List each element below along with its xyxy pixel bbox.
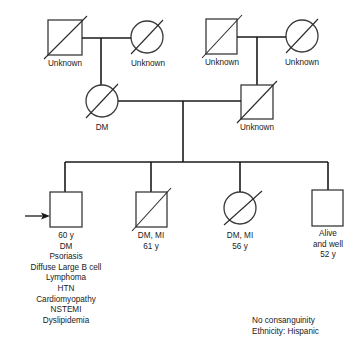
maternal-grandmother-label: Unknown	[285, 58, 319, 69]
proband-condition: NSTEMI	[31, 305, 102, 316]
brother2-status: and well	[313, 240, 343, 251]
brother2-label: Alive and well 52 y	[313, 229, 343, 261]
sister-conditions: DM, MI	[227, 231, 253, 242]
brother1-age: 61 y	[138, 242, 164, 253]
maternal-grandparents	[202, 15, 318, 85]
proband-condition: HTN	[31, 284, 102, 295]
diagram-notes: No consanguinity Ethnicity: Hispanic	[252, 316, 319, 337]
paternal-grandmother-label: Unknown	[131, 59, 165, 70]
paternal-grandfather-label: Unknown	[48, 59, 82, 70]
father-label: Unknown	[240, 123, 274, 134]
brother2-age: 52 y	[313, 250, 343, 261]
maternal-grandfather-label: Unknown	[205, 58, 239, 69]
brother2-symbol	[312, 190, 343, 226]
siblings	[25, 188, 343, 231]
proband-condition: Lymphoma	[31, 273, 102, 284]
parents	[86, 81, 277, 162]
sister-age: 56 y	[227, 242, 253, 253]
proband-condition: Cardiomyopathy	[31, 295, 102, 306]
proband-arrow-icon	[25, 213, 50, 220]
ethnicity-note: Ethnicity: Hispanic	[252, 327, 319, 338]
proband-symbol	[50, 192, 82, 227]
paternal-grandparents	[44, 16, 163, 85]
brother2-status: Alive	[313, 229, 343, 240]
sister-label: DM, MI 56 y	[227, 231, 253, 252]
brother1-conditions: DM, MI	[138, 231, 164, 242]
proband-condition: Diffuse Large B cell	[31, 263, 102, 274]
sister-symbol	[224, 192, 256, 224]
mother-label: DM	[96, 123, 109, 134]
consanguinity-note: No consanguinity	[252, 316, 319, 327]
proband-condition: Psoriasis	[31, 252, 102, 263]
proband-condition: Dyslipidemia	[31, 316, 102, 327]
brother1-label: DM, MI 61 y	[138, 231, 164, 252]
proband-condition: DM	[31, 242, 102, 253]
proband-age: 60 y	[31, 231, 102, 242]
proband-label: 60 y DM Psoriasis Diffuse Large B cell L…	[31, 231, 102, 326]
